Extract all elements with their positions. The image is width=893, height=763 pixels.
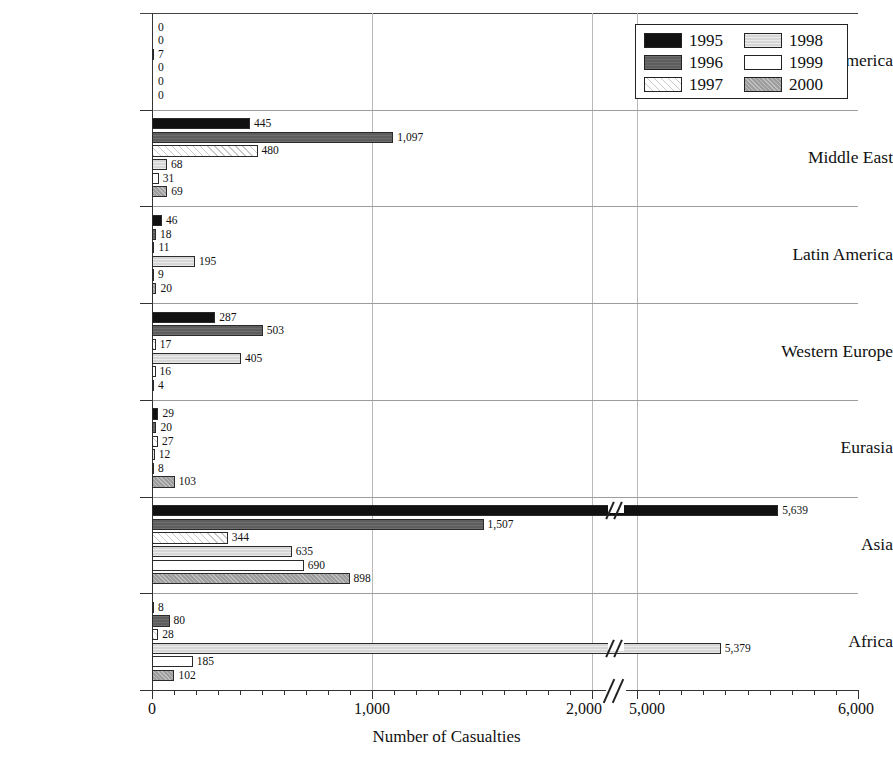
- x-tick-minor: [792, 690, 793, 695]
- x-tick-label-0: 0: [148, 700, 156, 718]
- bar-fill: [152, 339, 156, 350]
- bar-latin-america-2000: [152, 283, 858, 294]
- x-tick-minor: [770, 690, 771, 695]
- x-tick-major: [152, 690, 153, 699]
- x-tick-minor: [218, 690, 219, 695]
- x-tick-minor: [328, 690, 329, 695]
- bar-value-label: 480: [262, 145, 279, 156]
- bar-africa-1999: [152, 656, 858, 667]
- bar-fill: [152, 118, 250, 129]
- x-tick-major: [637, 690, 638, 699]
- bar-latin-america-1995: [152, 215, 858, 226]
- group-separator: [140, 400, 858, 401]
- casualties-bar-chart: North AmericaMiddle EastLatin AmericaWes…: [0, 0, 893, 763]
- bar-fill: [152, 186, 167, 197]
- bar-value-label: 195: [199, 256, 216, 267]
- bar-value-label: 0: [158, 76, 164, 87]
- x-tick-minor: [836, 690, 837, 695]
- bar-fill: [152, 436, 158, 447]
- x-tick-minor: [504, 690, 505, 695]
- x-tick-minor: [748, 690, 749, 695]
- legend-item-1998[interactable]: 1998: [744, 31, 823, 49]
- bar-value-label: 405: [245, 353, 262, 364]
- x-tick-minor: [659, 690, 660, 695]
- bar-value-label: 31: [163, 173, 175, 184]
- bar-middle-east-2000: [152, 186, 858, 197]
- legend-item-1996[interactable]: 1996: [644, 53, 723, 71]
- group-separator: [140, 110, 858, 111]
- bar-middle-east-1998: [152, 159, 858, 170]
- bar-eurasia-2000: [152, 476, 858, 487]
- bar-fill: [152, 449, 155, 460]
- bar-fill: [152, 366, 156, 377]
- y-axis-tick: [140, 593, 153, 594]
- bar-value-label: 28: [162, 629, 174, 640]
- bar-fill: [152, 422, 156, 433]
- bar-value-label: 8: [158, 602, 164, 613]
- legend: 199519981996199919972000: [635, 24, 848, 99]
- bar-value-label: 20: [160, 283, 172, 294]
- bar-value-label: 635: [296, 546, 313, 557]
- y-axis-tick: [140, 110, 153, 111]
- bar-value-label: 7: [158, 49, 164, 60]
- legend-label: 1995: [689, 32, 723, 49]
- legend-item-2000[interactable]: 2000: [744, 75, 823, 93]
- gridline-2: [637, 13, 638, 690]
- x-tick-major: [592, 690, 593, 699]
- group-separator: [140, 593, 858, 594]
- legend-swatch-1996: [644, 55, 682, 70]
- bar-asia-2000: [152, 573, 858, 584]
- bar-fill-segment-2: [637, 505, 778, 516]
- axis-break-mark: [606, 639, 626, 658]
- bar-latin-america-1996: [152, 229, 858, 240]
- legend-label: 1998: [789, 32, 823, 49]
- x-axis-title: Number of Casualties: [0, 727, 893, 747]
- bar-fill: [152, 476, 175, 487]
- legend-item-1995[interactable]: 1995: [644, 31, 723, 49]
- x-tick-minor: [526, 690, 527, 695]
- legend-swatch-1998: [744, 33, 782, 48]
- bar-value-label: 102: [178, 670, 195, 681]
- x-tick-minor: [438, 690, 439, 695]
- bar-value-label: 1,097: [397, 132, 423, 143]
- bar-value-label: 80: [174, 615, 186, 626]
- bar-western-europe-2000: [152, 380, 858, 391]
- bar-value-label: 1,507: [488, 519, 514, 530]
- legend-item-1999[interactable]: 1999: [744, 53, 823, 71]
- x-axis-line: [140, 690, 858, 691]
- bar-fill: [152, 173, 159, 184]
- bar-value-label: 29: [162, 408, 174, 419]
- bar-eurasia-1998: [152, 449, 858, 460]
- bar-fill: [152, 602, 154, 613]
- bar-value-label: 185: [197, 656, 214, 667]
- bar-value-label: 4: [158, 380, 164, 391]
- bar-value-label: 17: [160, 339, 172, 350]
- bar-value-label: 445: [254, 118, 271, 129]
- x-tick-minor: [482, 690, 483, 695]
- bar-value-label: 103: [179, 476, 196, 487]
- bar-fill: [152, 353, 241, 364]
- bar-fill: [152, 283, 156, 294]
- legend-swatch-1999: [744, 55, 782, 70]
- bar-value-label: 9: [158, 269, 164, 280]
- bar-fill: [152, 242, 154, 253]
- y-axis-tick: [140, 497, 153, 498]
- legend-item-1997[interactable]: 1997: [644, 75, 723, 93]
- bar-asia-1995: [152, 505, 858, 516]
- bar-western-europe-1995: [152, 312, 858, 323]
- bar-western-europe-1999: [152, 366, 858, 377]
- bar-fill: [152, 145, 258, 156]
- bar-value-label: 8: [158, 463, 164, 474]
- bar-fill: [152, 325, 263, 336]
- x-tick-label-1000: 1,000: [354, 700, 390, 718]
- bar-middle-east-1996: [152, 132, 858, 143]
- bar-fill: [152, 670, 174, 681]
- bar-middle-east-1997: [152, 145, 858, 156]
- x-tick-minor: [725, 690, 726, 695]
- x-tick-minor: [570, 690, 571, 695]
- bar-fill: [152, 229, 156, 240]
- bar-value-label: 287: [219, 312, 236, 323]
- bar-value-label: 503: [267, 325, 284, 336]
- bar-value-label: 16: [160, 366, 172, 377]
- legend-swatch-1995: [644, 33, 682, 48]
